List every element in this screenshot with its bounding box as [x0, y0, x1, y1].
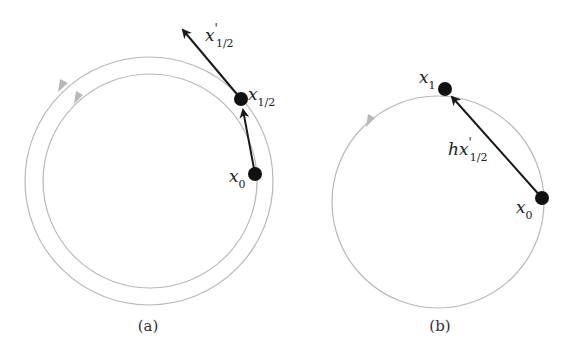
- caption-b: (b): [429, 317, 450, 335]
- label-x1: x1: [419, 67, 436, 92]
- panel-a: x'1/2 x1/2 x0 (a): [25, 22, 275, 335]
- label-x0: x0: [229, 166, 246, 191]
- label-x-half: x1/2: [248, 84, 275, 109]
- half-step-arrow: [243, 110, 255, 174]
- panel-b: x1 hx'1/2 x0 (b): [332, 67, 549, 335]
- point-x0: [248, 167, 262, 181]
- diagram-canvas: x'1/2 x1/2 x0 (a) x1 hx'1/2 x0 (b): [0, 0, 573, 358]
- label-step: hx'1/2: [448, 136, 488, 164]
- orbit-direction-arrow-icon: [58, 79, 68, 92]
- orbit-direction-arrow-icon: [366, 114, 375, 127]
- label-x0: x0: [516, 197, 533, 222]
- point-x1: [438, 82, 452, 96]
- point-x0: [535, 191, 549, 205]
- point-x-half: [234, 92, 248, 106]
- orbit-circle: [332, 96, 544, 308]
- label-x-half-prime: x'1/2: [205, 22, 234, 50]
- inner-orbit-circle: [43, 74, 257, 288]
- caption-a: (a): [138, 317, 159, 335]
